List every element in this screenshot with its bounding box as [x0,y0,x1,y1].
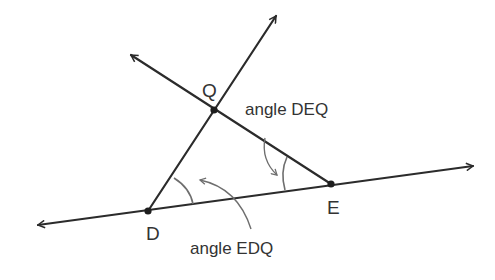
label-d: D [146,223,160,244]
pointer-arrow-deq [264,138,277,175]
label-e: E [327,197,340,218]
pointer-arrow-edq [200,180,251,229]
geometry-diagram: Q D E angle DEQ angle EDQ [0,0,495,280]
label-q: Q [202,80,217,101]
label-angle-deq: angle DEQ [245,100,328,119]
label-angle-edq: angle EDQ [190,239,273,258]
angle-arc-edq [174,178,193,204]
point-q [210,106,217,113]
angle-arc-deq [283,157,287,190]
point-e [327,180,334,187]
line-de [38,166,473,225]
point-d [144,207,151,214]
ray-eq [131,55,331,184]
